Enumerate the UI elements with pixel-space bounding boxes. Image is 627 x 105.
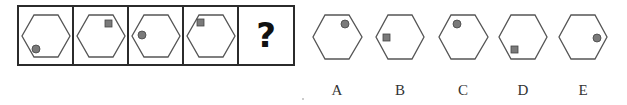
hexagon-square-top-right-icon [74,7,129,64]
sequence-cell-3 [129,7,184,64]
option-label-a: A [307,82,367,99]
option-label-b: B [370,82,430,99]
question-mark: ? [239,15,293,55]
option-b[interactable]: B [370,0,430,105]
hexagon-square-top-left-icon [184,7,239,64]
sequence-cell-1 [19,7,74,64]
hexagon-circle-top-left-icon [433,0,493,70]
option-label-c: C [433,82,493,99]
sequence-cell-unknown: ? [239,7,293,64]
option-d[interactable]: D [493,0,553,105]
hexagon-circle-bottom-left-icon [19,7,74,64]
option-c[interactable]: C [433,0,493,105]
stray-dot [302,98,304,100]
sequence-frame: ? [17,5,295,66]
option-e[interactable]: E [553,0,613,105]
option-a[interactable]: A [307,0,367,105]
option-label-d: D [493,82,553,99]
hexagon-circle-right-icon [553,0,613,70]
sequence-cell-2 [74,7,129,64]
hexagon-square-left-icon [370,0,430,70]
hexagon-circle-top-right-icon [307,0,367,70]
option-label-e: E [553,82,613,99]
sequence-cell-4 [184,7,239,64]
hexagon-square-bottom-left-icon [493,0,553,70]
hexagon-circle-left-icon [129,7,184,64]
